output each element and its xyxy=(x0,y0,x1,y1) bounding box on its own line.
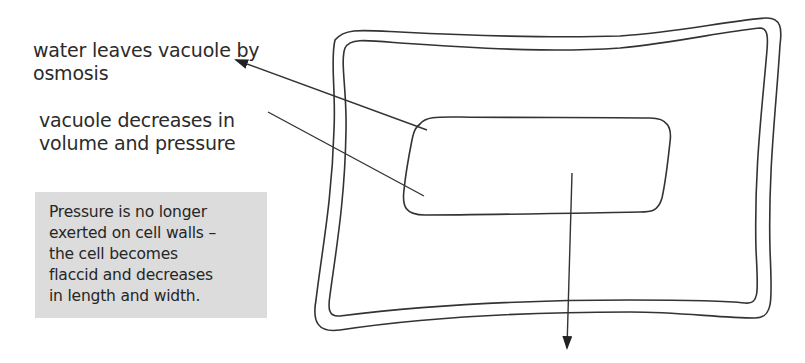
water-out-arrow xyxy=(236,60,427,130)
note-line: the cell becomes xyxy=(49,244,267,265)
downward-shrink-arrow xyxy=(567,173,572,348)
note-line: flaccid and decreases xyxy=(49,265,267,286)
cell-wall-inner xyxy=(329,28,767,316)
note-line: in length and width. xyxy=(49,286,267,307)
label-line: osmosis xyxy=(33,62,259,85)
label-line: volume and pressure xyxy=(39,132,235,155)
label-vacuole-decreases: vacuole decreases in volume and pressure xyxy=(39,109,235,155)
explanation-note-box: Pressure is no longer exerted on cell wa… xyxy=(35,192,267,318)
label-line: water leaves vacuole by xyxy=(33,39,259,62)
label-water-leaves-vacuole: water leaves vacuole by osmosis xyxy=(33,39,259,85)
diagram-canvas: water leaves vacuole by osmosis vacuole … xyxy=(0,0,805,363)
vacuole xyxy=(403,117,670,215)
label-line: vacuole decreases in xyxy=(39,109,235,132)
note-line: exerted on cell walls – xyxy=(49,223,267,244)
note-line: Pressure is no longer xyxy=(49,202,267,223)
